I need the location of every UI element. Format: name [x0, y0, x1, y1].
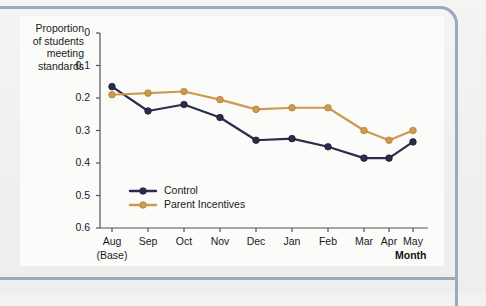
x-axis-tick-label: May [393, 235, 433, 247]
data-point[interactable] [253, 106, 260, 113]
legend-label: Parent Incentives [164, 198, 245, 210]
x-axis-tick-label: Oct [164, 235, 204, 247]
data-point[interactable] [410, 139, 417, 146]
x-axis-title: Month [395, 249, 427, 261]
y-axis-tick-label: 0.1 [64, 59, 90, 71]
data-point[interactable] [386, 155, 393, 162]
y-axis-tick-label: 0.4 [64, 156, 90, 168]
x-axis-tick-label: Dec [236, 235, 276, 247]
y-axis-tick-label: 0 [64, 26, 90, 38]
y-axis-tick-label: 0.5 [64, 189, 90, 201]
legend-label: Control [164, 184, 198, 196]
series-line [112, 92, 413, 141]
series-parent-incentives [109, 88, 417, 143]
y-axis-tick-label: 0.6 [64, 221, 90, 233]
data-point[interactable] [217, 114, 224, 121]
data-point[interactable] [181, 88, 188, 95]
data-point[interactable] [325, 104, 332, 111]
data-point[interactable] [361, 127, 368, 134]
x-axis-tick-label: Sep [128, 235, 168, 247]
data-point[interactable] [145, 108, 152, 115]
x-axis-tick-label: Nov [200, 235, 240, 247]
legend-entry-parent-incentives[interactable] [130, 202, 156, 209]
data-point[interactable] [181, 101, 188, 108]
data-point[interactable] [253, 137, 260, 144]
series-control [109, 83, 417, 161]
legend-marker-circle-icon [140, 202, 147, 209]
data-point[interactable] [289, 135, 296, 142]
data-point[interactable] [289, 104, 296, 111]
data-point[interactable] [386, 137, 393, 144]
x-axis-tick-label: Jan [272, 235, 312, 247]
legend-entry-control[interactable] [130, 188, 156, 195]
data-point[interactable] [145, 90, 152, 97]
y-axis-tick-label: 0.3 [64, 124, 90, 136]
data-point[interactable] [361, 155, 368, 162]
x-axis-tick-label: Feb [308, 235, 348, 247]
data-point[interactable] [325, 143, 332, 150]
data-point[interactable] [410, 127, 417, 134]
x-axis-tick-sublabel: (Base) [92, 249, 132, 261]
y-axis-tick-label: 0.2 [64, 91, 90, 103]
series-line [112, 87, 413, 159]
legend-marker-circle-icon [140, 188, 147, 195]
data-point[interactable] [217, 96, 224, 103]
data-point[interactable] [109, 91, 116, 98]
x-axis-tick-label: Aug [92, 235, 132, 247]
data-point[interactable] [109, 83, 116, 90]
